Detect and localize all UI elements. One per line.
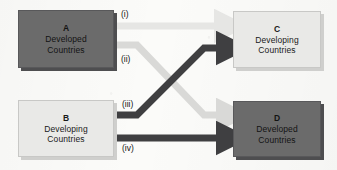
- node-b[interactable]: B Developing Countries: [18, 100, 114, 157]
- node-b-line2: Countries: [47, 134, 84, 144]
- edge-label-i: (i): [121, 9, 129, 19]
- node-a[interactable]: A Developed Countries: [18, 10, 114, 68]
- diagram-canvas: A Developed Countries C Developing Count…: [0, 0, 337, 170]
- node-c-line2: Countries: [258, 45, 295, 55]
- node-c[interactable]: C Developing Countries: [233, 11, 321, 68]
- node-d[interactable]: D Developed Countries: [233, 101, 321, 157]
- node-a-line2: Countries: [47, 45, 84, 55]
- node-d-line1: Developed: [256, 124, 298, 134]
- node-d-line2: Countries: [258, 135, 295, 145]
- edge-label-iii: (iii): [122, 99, 133, 109]
- node-d-id: D: [274, 113, 280, 123]
- node-c-line1: Developing: [255, 35, 299, 45]
- node-c-id: C: [274, 24, 280, 34]
- node-b-line1: Developing: [44, 124, 88, 134]
- edge-label-ii: (ii): [121, 54, 130, 64]
- node-a-id: A: [63, 23, 69, 33]
- node-a-line1: Developed: [45, 34, 87, 44]
- edge-label-iv: (iv): [122, 143, 134, 153]
- node-b-id: B: [63, 113, 69, 123]
